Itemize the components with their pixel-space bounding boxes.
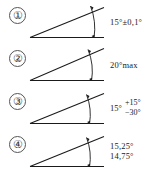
- callout-marker-4: ④: [9, 136, 26, 153]
- annotation-4: 15,25° 14,75°: [110, 129, 168, 173]
- angle-drawing-4: [28, 131, 110, 171]
- annotation-text-4-upper: 15,25°: [110, 141, 168, 151]
- callout-marker-1: ①: [9, 7, 26, 24]
- angle-diagram-1: [28, 2, 110, 42]
- angle-arc-1: [91, 6, 95, 38]
- angle-drawing-3: [28, 88, 110, 128]
- callout-marker-3: ③: [9, 93, 26, 110]
- figure-row-4: ④ 15,25° 14,75°: [0, 129, 168, 173]
- inclined-line-2: [30, 49, 104, 81]
- figure-row-2: ② 20°max: [0, 43, 168, 87]
- annotation-3: 15° +15° −30°: [110, 86, 168, 130]
- annotation-1: 15°±0,1°: [110, 0, 168, 44]
- callout-marker-2: ②: [9, 50, 26, 67]
- tolerance-expression-3: 15° +15° −30°: [110, 98, 168, 118]
- lower-deviation-3: −30°: [125, 108, 141, 118]
- angle-diagram-3: [28, 88, 110, 128]
- annotation-text-2: 20°max: [110, 60, 168, 70]
- figure-row-1: ① 15°±0,1°: [0, 0, 168, 44]
- inclined-line-3: [30, 94, 104, 124]
- angle-drawing-2: [28, 45, 110, 85]
- upper-deviation-3: +15°: [125, 98, 141, 108]
- angle-drawing-1: [28, 2, 110, 42]
- figure-row-3: ③ 15° +15° −30°: [0, 86, 168, 130]
- tolerance-stack-3: +15° −30°: [125, 98, 141, 118]
- annotation-text-1: 15°±0,1°: [110, 17, 168, 27]
- angle-diagram-2: [28, 45, 110, 85]
- inclined-line-4: [30, 137, 104, 167]
- angular-tolerance-figure: ① 15°±0,1° ② 20°max: [0, 0, 168, 175]
- angle-diagram-4: [28, 131, 110, 171]
- nominal-angle-3: 15°: [110, 103, 122, 113]
- annotation-2: 20°max: [110, 43, 168, 87]
- annotation-text-4-lower: 14,75°: [110, 151, 168, 161]
